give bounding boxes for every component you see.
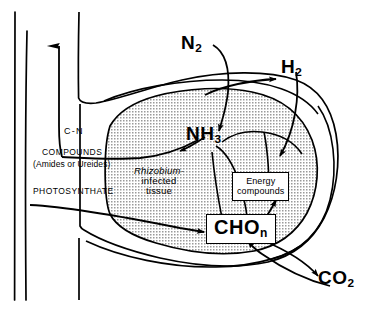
cn-transport-arrow <box>59 46 62 157</box>
chon-text: CHO <box>214 216 260 238</box>
energy-compounds-line-2: compounds <box>237 186 284 196</box>
energy-compounds-box: Energy compounds <box>232 172 289 201</box>
nodule-diagram-figure: N2 H2 NH3 CO2 C-N COMPOUNDS (Amides or U… <box>0 0 369 311</box>
label-cn: C-N <box>64 127 84 136</box>
root-outer-line-right <box>26 31 27 300</box>
label-photosynthate: PHOTOSYNTHATE <box>33 187 114 196</box>
root-outer-line-left <box>14 12 15 300</box>
label-n2: N2 <box>181 33 202 54</box>
energy-compounds-line-1: Energy <box>237 176 284 186</box>
label-amides-or-ureides: (Amides or Ureides) <box>33 160 110 169</box>
label-co2: CO2 <box>318 268 354 289</box>
tissue-line-3: tissue <box>116 186 202 196</box>
label-h2: H2 <box>281 57 302 78</box>
root-vascular-lines <box>14 12 27 300</box>
label-nh3: NH3 <box>186 124 221 145</box>
label-compounds: COMPOUNDS <box>42 148 102 157</box>
label-rhizobium-infected-tissue: Rhizobium- infected tissue <box>116 166 202 196</box>
chon-subscript: n <box>260 226 268 240</box>
chon-box: CHOn <box>206 214 276 244</box>
